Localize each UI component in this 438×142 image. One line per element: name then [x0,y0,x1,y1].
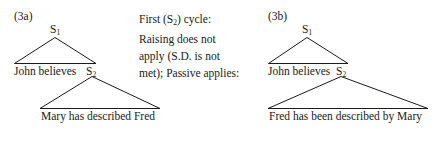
panel-3b-lower-triangle [268,77,428,109]
annotation-line-1: First (S2) cycle: [139,11,239,31]
panel-3b-matrix-string: John believes [268,66,330,78]
panel-3b-upper-triangle [269,38,349,64]
panel-3b-root-node: S1 [302,24,312,36]
panel-3a-embedded-node: S2 [86,66,96,78]
panel-3a-terminal-string: Mary has described Fred [41,111,155,123]
panel-3b-terminal-string: Fred has been described by Mary [269,111,422,123]
panel-3a-matrix-string: John believes [14,66,76,78]
panel-3a-embedded-node-index: 2 [92,70,96,79]
annotation-line-2: Raising does not [139,31,239,48]
panel-3a-root-node: S1 [50,24,60,36]
annotation-line-1-post: ) cycle: [177,13,211,25]
panel-3b-embedded-node: S2 [336,66,346,78]
panel-3b-root-node-index: 1 [308,28,312,37]
annotation-line-4: met); Passive applies: [139,65,239,82]
figure-canvas: (3a) S1 John believes S2 Mary has descri… [0,0,438,142]
derivation-annotation: First (S2) cycle: Raising does not apply… [139,11,239,82]
panel-3b-embedded-node-index: 2 [342,70,346,79]
annotation-line-1-pre: First (S [139,13,173,25]
annotation-line-3: apply (S.D. is not [139,48,239,65]
panel-3b-tag: (3b) [268,11,287,23]
panel-3a-root-node-index: 1 [56,28,60,37]
panel-3a-upper-triangle [15,38,97,64]
panel-3a-tag: (3a) [14,11,33,23]
